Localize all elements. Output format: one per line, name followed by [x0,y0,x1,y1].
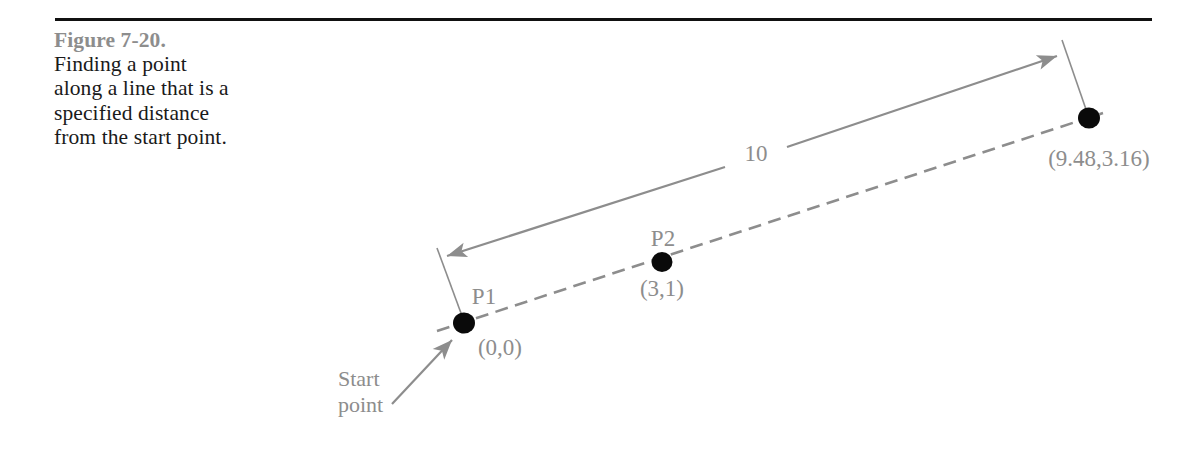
p1-label: P1 [472,284,496,309]
distance-arrow-left-segment [447,167,725,256]
start-point-label-line1: Start [338,366,380,391]
endpoint-coord-label: (9.48,3.16) [1048,146,1150,171]
point-dot-p1 [453,313,475,334]
start-point-leader-arrow [392,340,452,404]
start-point-label-line2: point [338,392,383,417]
p1-coord-label: (0,0) [478,335,522,360]
point-dot-p2 [652,252,673,272]
endpoint-extension-tick [1062,40,1089,118]
p2-coord-label: (3,1) [640,276,684,301]
dashed-ray-line [437,113,1103,331]
point-dot-endpoint [1078,108,1100,129]
p1-extension-tick [437,248,465,324]
figure-diagram: 10 (9.48,3.16) P2 (3,1) P1 (0,0) Start p… [0,0,1199,455]
distance-label: 10 [745,141,768,166]
p2-label: P2 [651,226,675,251]
figure-page: Figure 7-20. Finding a point along a lin… [0,0,1199,455]
distance-arrow-right-segment [787,56,1057,147]
